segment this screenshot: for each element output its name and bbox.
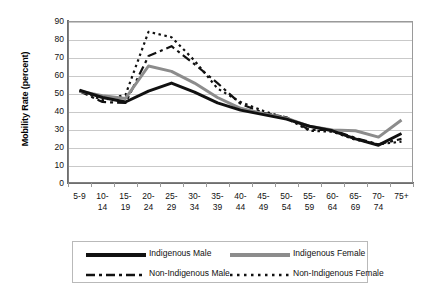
legend-item-indigenous-male[interactable]: Indigenous Male <box>85 242 211 263</box>
chart-legend: Indigenous Male Indigenous Female Non-In… <box>72 241 368 283</box>
legend-row-1: Indigenous Male Indigenous Female <box>73 242 367 263</box>
y-tick-label: 30 <box>42 125 64 133</box>
x-tick-mark <box>229 183 230 187</box>
legend-row-2: Non-Indigenous Male Non-Indigenous Femal… <box>73 262 367 283</box>
x-tick-mark <box>321 183 322 187</box>
y-tick-label: 60 <box>42 71 64 79</box>
x-tick-mark <box>275 183 276 187</box>
x-tick-mark <box>137 183 138 187</box>
y-tick-label: 0 <box>42 179 64 187</box>
x-tick-mark <box>114 183 115 187</box>
x-tick-mark <box>183 183 184 187</box>
y-tick-label: 40 <box>42 107 64 115</box>
legend-swatch-line <box>229 249 291 261</box>
x-tick-label: 75+ <box>385 191 419 202</box>
y-axis-title: Mobility Rate (percent) <box>18 14 32 184</box>
x-tick-mark <box>413 183 414 187</box>
legend-label: Indigenous Male <box>149 248 211 258</box>
legend-swatch-dotted-black <box>229 267 291 279</box>
legend-item-non-indigenous-female[interactable]: Non-Indigenous Female <box>229 262 384 283</box>
x-tick-mark <box>91 183 92 187</box>
legend-swatch-solid-black <box>85 247 147 259</box>
x-tick-mark <box>344 183 345 187</box>
legend-label: Non-Indigenous Female <box>293 268 384 278</box>
y-tick-label: 80 <box>42 35 64 43</box>
legend-swatch-line <box>85 249 147 261</box>
legend-item-indigenous-female[interactable]: Indigenous Female <box>229 242 365 263</box>
series-layer <box>68 21 413 183</box>
y-tick-label: 50 <box>42 89 64 97</box>
y-tick-label: 70 <box>42 53 64 61</box>
x-tick-mark <box>68 183 69 187</box>
legend-item-non-indigenous-male[interactable]: Non-Indigenous Male <box>85 262 230 283</box>
y-tick-label: 90 <box>42 17 64 25</box>
legend-label: Indigenous Female <box>293 248 365 258</box>
x-tick-mark <box>252 183 253 187</box>
x-tick-mark <box>390 183 391 187</box>
x-tick-mark <box>206 183 207 187</box>
legend-label: Non-Indigenous Male <box>149 268 230 278</box>
legend-swatch-dashed-black <box>85 267 147 279</box>
series-line-non-indigenous-female <box>80 32 402 145</box>
x-tick-label-line: 75+ <box>385 191 419 202</box>
legend-swatch-line <box>85 269 147 281</box>
legend-swatch-solid-gray <box>229 247 291 259</box>
x-tick-mark <box>367 183 368 187</box>
x-tick-label-line: 74 <box>362 202 396 213</box>
series-line-indigenous-male <box>80 83 402 145</box>
x-tick-mark <box>160 183 161 187</box>
y-tick-label: 20 <box>42 143 64 151</box>
legend-swatch-line <box>229 269 291 281</box>
x-tick-mark <box>298 183 299 187</box>
y-tick-label: 10 <box>42 161 64 169</box>
mobility-rate-line-chart: Mobility Rate (percent) 9080706050403020… <box>0 0 434 292</box>
